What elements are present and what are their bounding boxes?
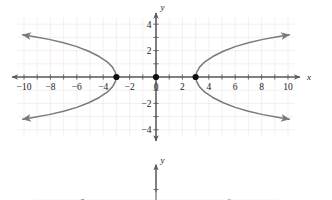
x-tick-label: 8	[259, 82, 264, 92]
x-tick-label: 6	[233, 82, 238, 92]
second-graph-cropped: y	[0, 150, 332, 200]
y-axis-name-second: y	[160, 155, 165, 165]
x-tick-label: −2	[125, 82, 135, 92]
x-tick-label: 10	[283, 82, 293, 92]
vertex-point	[113, 74, 119, 80]
y-tick-label: 4	[147, 20, 152, 30]
vertex-point	[193, 74, 199, 80]
y-tick-label: 2	[147, 46, 152, 56]
y-tick-label: −4	[141, 125, 151, 135]
x-tick-label: −10	[17, 82, 32, 92]
hyperbola-branch	[196, 35, 290, 77]
x-tick-label: 2	[180, 82, 185, 92]
hyperbola-branch	[23, 35, 117, 77]
x-tick-label: −8	[45, 82, 55, 92]
y-axis-name: y	[160, 2, 165, 12]
x-tick-label: −4	[98, 82, 108, 92]
hyperbola-graph: −10−8−6−4−20246810−4−224xy	[0, 0, 332, 150]
x-tick-label: 4	[206, 82, 211, 92]
x-axis-name: x	[306, 72, 311, 82]
y-tick-label: −2	[141, 99, 151, 109]
x-tick-label: 0	[154, 82, 159, 92]
x-tick-label: −6	[72, 82, 82, 92]
figure-container: −10−8−6−4−20246810−4−224xy y x y	[0, 0, 332, 200]
origin-point	[153, 74, 159, 80]
